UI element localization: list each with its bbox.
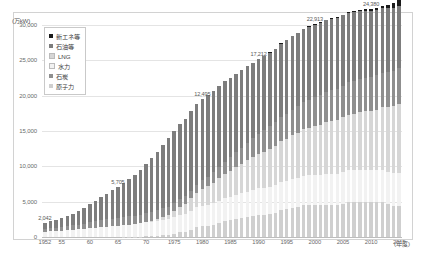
bar-segment: [307, 175, 310, 205]
bar-segment: [217, 167, 220, 178]
bar-segment: [122, 183, 125, 217]
bar-segment: [313, 175, 316, 205]
bar-segment: [319, 125, 322, 175]
bar-segment: [279, 44, 282, 117]
bar-segment: [206, 205, 209, 226]
bar-segment: [397, 6, 400, 68]
bar-column: [257, 59, 260, 237]
bar-column: [127, 179, 130, 237]
bar-segment: [54, 231, 57, 237]
x-axis-tick-label: 2015: [393, 239, 406, 245]
bar-segment: [274, 146, 277, 186]
legend-item: 新エネ等: [49, 31, 80, 41]
bar-column: [94, 201, 97, 237]
bar-segment: [144, 236, 147, 237]
bar-segment: [302, 29, 305, 102]
bar-segment: [291, 208, 294, 237]
legend-item-label: 石油等: [56, 42, 74, 51]
bar-segment: [172, 217, 175, 234]
bar-segment: [381, 107, 384, 170]
bar-segment: [150, 222, 153, 236]
bar-segment: [307, 27, 310, 100]
bar-segment: [364, 111, 367, 170]
bar-segment: [60, 231, 63, 237]
bar-segment: [296, 178, 299, 207]
y-axis-tick-label: 5,000: [22, 199, 37, 205]
bar-segment: [206, 186, 209, 205]
bar-value-label: 2,042: [38, 215, 51, 221]
bar-column: [397, 0, 400, 237]
bar-segment: [71, 214, 74, 226]
bar-segment: [313, 205, 316, 237]
bar-column: [251, 63, 254, 237]
x-axis-tick-label: 1985: [224, 239, 237, 245]
bar-segment: [206, 177, 209, 186]
bar-column: [330, 18, 333, 237]
bar-segment: [229, 157, 232, 171]
bar-segment: [262, 130, 265, 151]
bar-segment: [156, 221, 159, 236]
bar-segment: [172, 234, 175, 237]
bar-column: [54, 220, 57, 237]
bar-segment: [268, 149, 271, 187]
bar-segment: [324, 20, 327, 92]
bar-segment: [397, 173, 400, 206]
bar-segment: [178, 199, 181, 207]
bar-segment: [156, 152, 159, 211]
x-axis-tick-label: 1975: [168, 239, 181, 245]
bar-segment: [251, 190, 254, 216]
bar-segment: [307, 128, 310, 176]
bar-segment: [336, 205, 339, 237]
x-axis-tick-label: 65: [115, 239, 121, 245]
bar-segment: [251, 63, 254, 139]
bar-segment: [296, 106, 299, 133]
bar-segment: [262, 152, 265, 188]
bar-segment: [291, 179, 294, 208]
bar-segment: [251, 138, 254, 157]
bar-segment: [66, 230, 69, 237]
bar-segment: [189, 211, 192, 230]
bar-segment: [195, 193, 198, 208]
x-axis-tick-label: 1980: [196, 239, 209, 245]
bar-value-label: 17,212: [250, 51, 266, 57]
bar-segment: [324, 122, 327, 174]
bar-segment: [257, 134, 260, 154]
bar-segment: [369, 77, 372, 111]
bar-segment: [234, 195, 237, 219]
x-axis-tick-labels: (年度) 19525560657019751980198519901995200…: [42, 239, 402, 253]
bar-segment: [375, 75, 378, 109]
bar-segment: [274, 213, 277, 237]
bar-segment: [116, 187, 119, 218]
legend-item-label: 新エネ等: [56, 32, 80, 41]
bar-segment: [279, 141, 282, 182]
bar-segment: [369, 202, 372, 237]
bar-segment: [223, 81, 226, 162]
bar-segment: [313, 25, 316, 98]
bar-segment: [274, 122, 277, 145]
bar-value-label: 22,913: [307, 16, 323, 22]
bar-segment: [364, 170, 367, 202]
bar-segment: [201, 180, 204, 189]
bar-segment: [189, 111, 192, 190]
bar-segment: [172, 131, 175, 203]
bar-segment: [212, 91, 215, 173]
bar-column: [302, 29, 305, 237]
bar-segment: [144, 213, 147, 221]
bar-segment: [212, 225, 215, 237]
bar-segment: [144, 222, 147, 236]
bar-segment: [392, 206, 395, 237]
bar-segment: [369, 111, 372, 171]
bar-segment: [341, 86, 344, 118]
bar-segment: [358, 79, 361, 112]
bar-segment: [139, 223, 142, 236]
bar-segment: [150, 212, 153, 220]
bar-segment: [105, 219, 108, 226]
bar-segment: [60, 218, 63, 227]
bar-segment: [246, 66, 249, 142]
bar-segment: [195, 104, 198, 184]
legend-item-label: 石炭: [56, 72, 68, 81]
legend-swatch-icon: [49, 63, 55, 69]
bar-segment: [246, 143, 249, 160]
x-axis-tick-label: 2010: [365, 239, 378, 245]
bar-series-group: [42, 25, 402, 237]
